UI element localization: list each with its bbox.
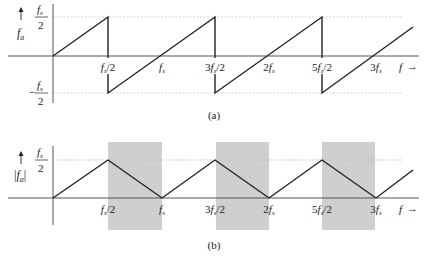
y-top-den-b: 2 — [38, 162, 44, 174]
x-axis-label-a: f — [399, 61, 404, 73]
y-label-b: |fa| — [14, 168, 26, 184]
x-tick-b-1: fs — [159, 203, 165, 217]
x-tick-a-0: fs/2 — [101, 61, 115, 75]
shaded-band-1 — [108, 142, 162, 230]
sawtooth-curve — [53, 17, 413, 93]
y-arrow-head-icon-a — [19, 7, 24, 12]
x-tick-a-1: fs — [159, 61, 165, 75]
y-bot-num-a: fs — [37, 79, 43, 93]
x-arrow-icon-b: → — [407, 202, 418, 214]
x-axis-label-b: f — [399, 203, 404, 215]
caption-b: (b) — [208, 239, 221, 252]
x-tick-b-5: 3fs — [370, 203, 382, 217]
y-bot-den-a: 2 — [38, 95, 44, 107]
shaded-band-2 — [216, 142, 269, 230]
y-top-den-a: 2 — [38, 19, 44, 31]
y-bot-sign-a: − — [29, 86, 35, 98]
x-tick-a-3: 2fs — [263, 61, 275, 75]
y-top-num-b: fs — [37, 146, 43, 160]
panel-a: fa fs 2 − fs 2 fs/2 fs 3fs/2 2fs 5fs/2 3… — [8, 3, 419, 122]
x-tick-b-3: 2fs — [263, 203, 275, 217]
x-arrow-icon-a: → — [407, 60, 418, 72]
x-tick-a-5: 3fs — [370, 61, 382, 75]
y-label-a: fa — [17, 26, 24, 42]
shaded-band-3 — [322, 142, 375, 230]
panel-b: |fa| fs 2 fs/2 fs 3fs/2 2fs 5fs/2 3fs f … — [8, 142, 419, 252]
y-top-num-a: fs — [37, 3, 43, 17]
x-tick-b-0: fs/2 — [101, 203, 115, 217]
aliasing-figure: fa fs 2 − fs 2 fs/2 fs 3fs/2 2fs 5fs/2 3… — [0, 0, 429, 257]
x-tick-b-2: 3fs/2 — [205, 203, 225, 217]
caption-a: (a) — [208, 109, 221, 122]
y-arrow-head-icon-b — [19, 151, 24, 156]
